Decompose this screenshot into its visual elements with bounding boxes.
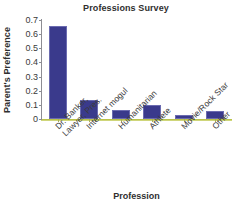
- y-axis-tick-label: 0.5: [2, 43, 38, 53]
- bar-slot: [42, 20, 74, 119]
- bar-slot: [168, 20, 200, 119]
- y-axis-tick-label: 0: [2, 114, 38, 124]
- y-axis-tick-label: 0.7: [2, 15, 38, 25]
- y-axis-tick-label: 0.2: [2, 86, 38, 96]
- x-axis-category-labels: Dr. Banker,Lawyer, Pres.Internet mogulHu…: [42, 120, 243, 182]
- bar-chart: Professions Survey Parent's Preference 0…: [0, 0, 243, 207]
- y-axis-tick-label: 0.3: [2, 72, 38, 82]
- y-axis-tick-label: 0.4: [2, 57, 38, 67]
- y-axis-tick-label: 0.6: [2, 29, 38, 39]
- bar[interactable]: [49, 26, 67, 119]
- y-axis-tick-label: 0.1: [2, 100, 38, 110]
- x-axis-title: Profession: [42, 191, 231, 201]
- chart-title: Professions Survey: [46, 3, 206, 13]
